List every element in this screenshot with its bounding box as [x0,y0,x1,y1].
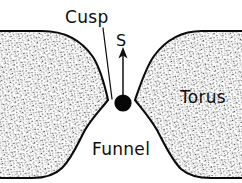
diagram-svg: Cusp S Torus Funnel [0,0,242,183]
figure-canvas: Cusp S Torus Funnel [0,0,242,183]
label-s: S [116,31,126,50]
label-cusp: Cusp [65,7,109,27]
left-torus-lobe [0,25,130,183]
label-torus: Torus [179,87,226,107]
source-dot [114,94,131,111]
left-lobe-stipple-fill-overlay [0,25,130,183]
outflow-arrow [118,47,127,95]
label-funnel: Funnel [92,139,150,159]
